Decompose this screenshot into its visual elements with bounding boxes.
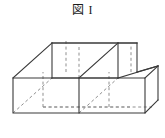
visible-edge-right-face-bottom-diagonal	[145, 100, 158, 113]
visible-edge-top-mid-diagonal	[79, 43, 118, 78]
visible-edge-top-left-diagonal	[13, 43, 52, 78]
hidden-edges-group	[13, 40, 152, 113]
hidden-edge-bottom-mid-diagonal	[79, 78, 118, 113]
hidden-edge-bottom-left-diagonal	[13, 78, 52, 113]
figure-container: 図 I	[0, 0, 165, 138]
visible-edges-group	[13, 43, 158, 113]
cube-diagram-svg	[0, 0, 165, 138]
